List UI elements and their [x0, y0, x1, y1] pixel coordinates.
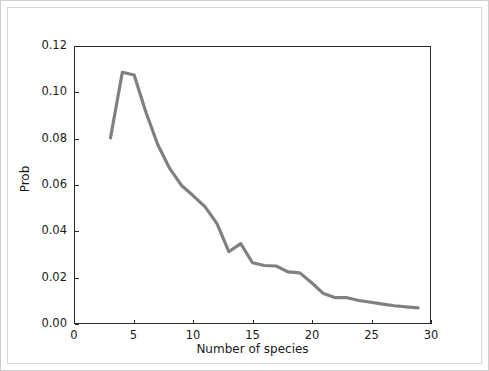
y-tick-label: 0.10	[1, 86, 67, 98]
y-tick-label: 0.00	[1, 318, 67, 330]
y-tick-label: 0.06	[1, 179, 67, 191]
x-tick-label: 15	[233, 330, 273, 342]
x-tick-label: 30	[411, 330, 451, 342]
x-tick-label: 5	[114, 330, 154, 342]
y-tick-label: 0.08	[1, 133, 67, 145]
x-tick-mark	[431, 320, 432, 324]
y-tick-mark	[75, 324, 79, 325]
line-chart-svg	[75, 47, 430, 323]
y-tick-label: 0.12	[1, 40, 67, 52]
x-tick-label: 25	[352, 330, 392, 342]
plot-area	[74, 46, 431, 324]
x-axis-label: Number of species	[74, 343, 431, 355]
y-tick-label: 0.04	[1, 225, 67, 237]
x-tick-label: 0	[54, 330, 94, 342]
x-tick-label: 20	[292, 330, 332, 342]
y-axis-label: Prob	[19, 149, 31, 209]
series-line-prob	[111, 72, 419, 308]
figure-frame: 0.000.020.040.060.080.100.12 05101520253…	[0, 0, 489, 371]
x-tick-label: 10	[173, 330, 213, 342]
y-tick-label: 0.02	[1, 272, 67, 284]
